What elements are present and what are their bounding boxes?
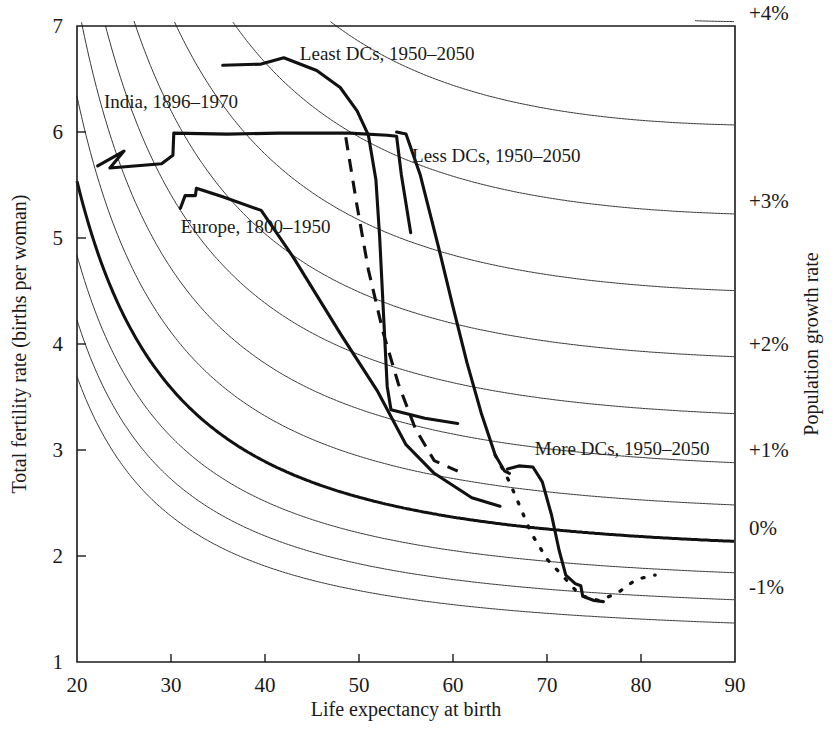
series-lines-group (98, 58, 655, 602)
y2-tick-label: +4% (749, 1, 789, 25)
y-tick-label: 7 (53, 14, 64, 38)
series-label-2: Less DCs, 1950–2050 (412, 145, 580, 166)
series-label-4: More DCs, 1950–2050 (535, 438, 710, 459)
series-label-1: India, 1896–1970 (104, 91, 238, 112)
y-tick-label: 6 (53, 120, 64, 144)
y-tick-label: 2 (53, 544, 64, 568)
y-tick-label: 1 (53, 650, 64, 674)
x-axis-title: Life expectancy at birth (311, 698, 501, 721)
contour-line (331, 22, 735, 125)
series-line-2 (223, 58, 458, 424)
y2-tick-label: +3% (749, 189, 789, 213)
y2-tick-label: -1% (749, 575, 784, 599)
x-tick-label: 40 (255, 673, 276, 697)
x-tick-label: 90 (725, 673, 746, 697)
series-label-3: Europe, 1800–1950 (181, 216, 331, 237)
y2-tick-label: +1% (749, 438, 789, 462)
x-tick-label: 70 (537, 673, 558, 697)
series-line-6 (495, 455, 655, 600)
x-tick-label: 50 (349, 673, 370, 697)
axes-group (77, 26, 735, 662)
y2-tick-label: 0% (749, 516, 777, 540)
x-tick-label: 30 (161, 673, 182, 697)
chart-canvas: 20304050607080901234567+4%+3%+2%+1%0%-1%… (0, 0, 837, 734)
contour-line (695, 21, 734, 22)
series-label-0: Least DCs, 1950–2050 (300, 43, 475, 64)
contour-line (134, 21, 734, 357)
y-tick-label: 5 (53, 226, 64, 250)
x-tick-label: 20 (67, 673, 88, 697)
chart-figure: 20304050607080901234567+4%+3%+2%+1%0%-1%… (0, 0, 837, 734)
x-tick-label: 80 (631, 673, 652, 697)
contour-line (77, 320, 734, 600)
y-tick-label: 4 (53, 332, 64, 356)
y-tick-label: 3 (53, 438, 64, 462)
x-tick-label: 60 (443, 673, 464, 697)
y-axis-title: Total fertility rate (births per woman) (8, 194, 31, 493)
series-annotations-group: Least DCs, 1950–2050India, 1896–1970Less… (104, 43, 710, 459)
contour-line-zero-percent (77, 181, 734, 541)
y2-axis-title: Population growth rate (800, 252, 823, 435)
plot-frame (77, 26, 735, 662)
y2-tick-label: +2% (749, 332, 789, 356)
